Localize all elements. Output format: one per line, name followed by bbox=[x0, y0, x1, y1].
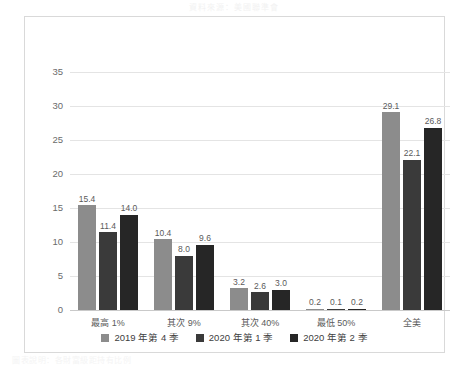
bar[interactable]: 29.1 bbox=[382, 112, 400, 310]
bar[interactable]: 0.2 bbox=[348, 309, 366, 311]
x-axis-category-label: 全美 bbox=[403, 319, 421, 328]
y-axis-tick-label: 30 bbox=[52, 101, 63, 111]
bar-value-label: 15.4 bbox=[79, 195, 96, 204]
y-axis-tick-label: 5 bbox=[58, 271, 63, 281]
bar-group: 10.48.09.6其次 9% bbox=[146, 72, 222, 310]
legend-label: 2020 年第 2 季 bbox=[303, 333, 367, 343]
chart-frame: 0510152025303515.411.414.0最高 1%10.48.09.… bbox=[24, 16, 445, 353]
bar-value-label: 3.2 bbox=[233, 278, 245, 287]
bar[interactable]: 10.4 bbox=[154, 239, 172, 310]
bar[interactable]: 11.4 bbox=[99, 232, 117, 310]
bar-value-label: 11.4 bbox=[100, 222, 116, 231]
bar[interactable]: 9.6 bbox=[196, 245, 214, 310]
bottom-caption: 圖表說明：各財富級距持有比例 bbox=[0, 354, 467, 365]
legend-swatch-icon bbox=[290, 334, 298, 342]
x-axis-category-label: 其次 40% bbox=[241, 319, 280, 328]
bar-value-label: 0.1 bbox=[330, 298, 342, 307]
bar[interactable]: 8.0 bbox=[175, 256, 193, 310]
bar[interactable]: 26.8 bbox=[424, 128, 442, 310]
bar-value-label: 10.4 bbox=[155, 229, 172, 238]
bar-value-label: 29.1 bbox=[383, 102, 400, 111]
bar-group: 0.20.10.2最低 50% bbox=[298, 72, 374, 310]
bar-value-label: 2.6 bbox=[254, 282, 266, 291]
bar[interactable]: 3.2 bbox=[230, 288, 248, 310]
legend-label: 2019 年第 4 季 bbox=[114, 333, 178, 343]
legend-swatch-icon bbox=[101, 334, 109, 342]
bar-value-label: 8.0 bbox=[178, 245, 190, 254]
legend-item[interactable]: 2019 年第 4 季 bbox=[101, 333, 178, 343]
bar[interactable]: 22.1 bbox=[403, 160, 421, 310]
y-axis-tick-label: 10 bbox=[52, 237, 63, 247]
bar[interactable]: 0.1 bbox=[327, 309, 345, 311]
x-axis-category-label: 最低 50% bbox=[317, 319, 356, 328]
x-axis-category-label: 其次 9% bbox=[167, 319, 201, 328]
y-axis-tick-label: 15 bbox=[52, 203, 63, 213]
plot-area: 0510152025303515.411.414.0最高 1%10.48.09.… bbox=[70, 72, 450, 310]
bar[interactable]: 15.4 bbox=[78, 205, 96, 310]
legend-swatch-icon bbox=[196, 334, 204, 342]
axis-baseline bbox=[70, 310, 450, 311]
bar-group: 29.122.126.8全美 bbox=[374, 72, 450, 310]
bar[interactable]: 14.0 bbox=[120, 215, 138, 310]
bar-value-label: 9.6 bbox=[199, 234, 211, 243]
y-axis-tick-label: 35 bbox=[52, 67, 63, 77]
bar[interactable]: 2.6 bbox=[251, 292, 269, 310]
bar-value-label: 26.8 bbox=[425, 117, 442, 126]
y-axis-tick-label: 25 bbox=[52, 135, 63, 145]
bar[interactable]: 3.0 bbox=[272, 290, 290, 310]
y-axis-tick-label: 20 bbox=[52, 169, 63, 179]
bar-value-label: 22.1 bbox=[404, 149, 421, 158]
bar-value-label: 14.0 bbox=[121, 204, 138, 213]
top-caption: 資料來源：美國聯準會 bbox=[0, 1, 467, 12]
legend-item[interactable]: 2020 年第 1 季 bbox=[196, 333, 273, 343]
bar-value-label: 3.0 bbox=[275, 279, 287, 288]
bar-value-label: 0.2 bbox=[351, 298, 363, 307]
bar-group: 15.411.414.0最高 1% bbox=[70, 72, 146, 310]
y-axis-tick-label: 0 bbox=[58, 305, 63, 315]
legend-item[interactable]: 2020 年第 2 季 bbox=[290, 333, 367, 343]
bar-value-label: 0.2 bbox=[309, 298, 321, 307]
chart-legend: 2019 年第 4 季2020 年第 1 季2020 年第 2 季 bbox=[24, 333, 445, 343]
bar-group: 3.22.63.0其次 40% bbox=[222, 72, 298, 310]
bar[interactable]: 0.2 bbox=[306, 309, 324, 311]
legend-label: 2020 年第 1 季 bbox=[209, 333, 273, 343]
x-axis-category-label: 最高 1% bbox=[91, 319, 125, 328]
